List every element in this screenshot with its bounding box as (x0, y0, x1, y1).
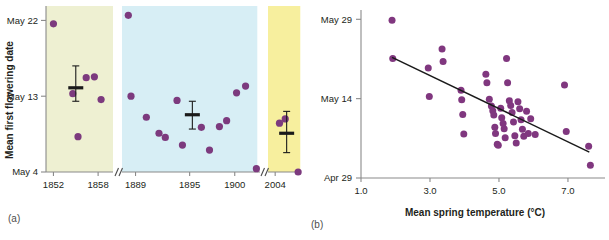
data-point (483, 79, 490, 86)
panel-a-x-tick-label: 2004 (265, 179, 286, 190)
panel-a-x-tick-label: 1895 (179, 179, 200, 190)
data-point (459, 111, 466, 118)
axis-break-mark (115, 168, 119, 176)
data-point (425, 64, 432, 71)
data-point (389, 17, 396, 24)
data-point (458, 96, 465, 103)
data-point (162, 134, 169, 141)
data-point (50, 20, 57, 27)
data-point (460, 131, 467, 138)
data-point (513, 140, 520, 147)
data-point (440, 58, 447, 65)
figure-container: May 22May 13May 418521858188918951900200… (0, 0, 609, 240)
panel-a-background-bands (46, 6, 300, 172)
panel-a-x-tick-label: 1858 (88, 179, 109, 190)
panel-b-x-tick-label: 1.0 (354, 185, 367, 196)
panel-a-label: (a) (8, 213, 20, 224)
regression-line (392, 57, 589, 152)
data-point (83, 74, 90, 81)
data-point (91, 73, 98, 80)
data-point (525, 130, 532, 137)
data-point (439, 45, 446, 52)
data-point (486, 96, 493, 103)
panel-b-x-tick-label: 3.0 (423, 185, 436, 196)
data-point (74, 133, 81, 140)
data-point (173, 97, 180, 104)
axis-break-mark (261, 168, 265, 176)
data-point (179, 141, 186, 148)
data-point (585, 143, 592, 150)
data-point (527, 115, 534, 122)
data-point (495, 142, 502, 149)
panel-a-y-axis-title: Mean first flowering date (4, 41, 15, 159)
data-point (510, 118, 517, 125)
data-point (502, 134, 509, 141)
axis-break-mark (265, 168, 269, 176)
panel-b-regression-line (392, 57, 589, 152)
panel-b-tick-labels: May 29May 14Apr 291.03.05.07.0 (321, 14, 575, 196)
data-point (516, 105, 523, 112)
panel-b: May 29May 14Apr 291.03.05.07.0 Mean spri… (305, 0, 609, 240)
data-point (501, 125, 508, 132)
panel-b-y-tick-label: May 29 (321, 14, 352, 25)
data-point (498, 114, 505, 121)
panel-b-y-tick-label: May 14 (321, 93, 352, 104)
data-point (127, 93, 134, 100)
data-point (587, 162, 594, 169)
panel-a-x-tick-label: 1900 (224, 179, 245, 190)
panel-a-y-tick-label: May 22 (7, 15, 38, 26)
panel-b-x-tick-label: 7.0 (561, 185, 574, 196)
data-point (223, 117, 230, 124)
data-point (511, 132, 518, 139)
data-point (503, 55, 510, 62)
data-point (242, 83, 249, 90)
panel-b-y-tick-label: Apr 29 (324, 172, 352, 183)
axis-break-mark (119, 168, 123, 176)
panel-a-x-tick-label: 1852 (43, 179, 64, 190)
panel-a: May 22May 13May 418521858188918951900200… (0, 0, 305, 240)
panel-b-label: (b) (311, 219, 323, 230)
panel-a-svg: May 22May 13May 418521858188918951900200… (0, 0, 305, 240)
data-point (482, 71, 489, 78)
data-point (426, 93, 433, 100)
data-point (295, 168, 302, 175)
band-period-1880s-1900s (122, 6, 257, 172)
panel-b-data-points (389, 17, 594, 169)
data-point (253, 165, 260, 172)
panel-b-axes (356, 10, 605, 182)
data-point (216, 123, 223, 130)
data-point (206, 147, 213, 154)
panel-a-y-tick-label: May 4 (12, 166, 38, 177)
data-point (561, 81, 568, 88)
data-point (523, 108, 530, 115)
data-point (514, 98, 521, 105)
data-point (125, 12, 132, 19)
panel-b-svg: May 29May 14Apr 291.03.05.07.0 Mean spri… (305, 0, 609, 240)
data-point (532, 131, 539, 138)
data-point (492, 130, 499, 137)
data-point (563, 128, 570, 135)
panel-b-x-tick-label: 5.0 (492, 185, 505, 196)
data-point (490, 112, 497, 119)
panel-b-x-axis-title: Mean spring temperature (°C) (405, 207, 545, 218)
data-point (491, 124, 498, 131)
data-point (504, 79, 511, 86)
data-point (276, 120, 283, 127)
band-period-2000s (268, 6, 300, 172)
data-point (507, 102, 514, 109)
data-point (97, 96, 104, 103)
data-point (198, 124, 205, 131)
data-point (519, 126, 526, 133)
data-point (233, 89, 240, 96)
panel-a-x-tick-label: 1889 (125, 179, 146, 190)
data-point (282, 115, 289, 122)
data-point (143, 114, 150, 121)
data-point (155, 130, 162, 137)
